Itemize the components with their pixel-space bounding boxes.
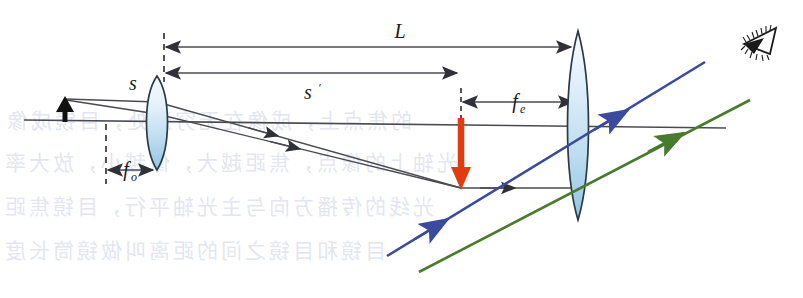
green-ray-arrowhead <box>648 133 684 152</box>
label-s-prime-base: s <box>304 81 312 103</box>
optics-diagram-figure: 的焦点上，成像在无穷远处，目镜成像 光轴上的像点，焦距越大，像越小，放大率 光线… <box>0 0 803 298</box>
optical-axis <box>24 120 726 128</box>
label-L: L <box>393 20 405 42</box>
label-f-o-sub: o <box>131 170 137 184</box>
object-arrow <box>56 96 74 122</box>
blue-ray-arrowhead-1 <box>415 219 448 239</box>
label-s: s <box>129 72 137 94</box>
intermediate-image-arrow <box>451 118 471 190</box>
objective-lens <box>147 76 168 170</box>
eyepiece-lens <box>568 31 589 220</box>
label-f-o: f o <box>123 158 137 184</box>
label-s-prime: s ′ <box>304 81 321 103</box>
ray-parallel-outgoing-arrowhead <box>270 142 300 150</box>
eye-icon <box>741 25 776 61</box>
label-f-e: f e <box>512 90 526 116</box>
diagram-canvas: s s ′ L f o f e <box>0 0 803 298</box>
label-s-prime-mark: ′ <box>318 81 321 95</box>
ray-chief-outgoing-arrowhead <box>248 128 278 136</box>
label-f-e-sub: e <box>520 102 526 116</box>
ray-chief-outgoing <box>157 102 461 188</box>
